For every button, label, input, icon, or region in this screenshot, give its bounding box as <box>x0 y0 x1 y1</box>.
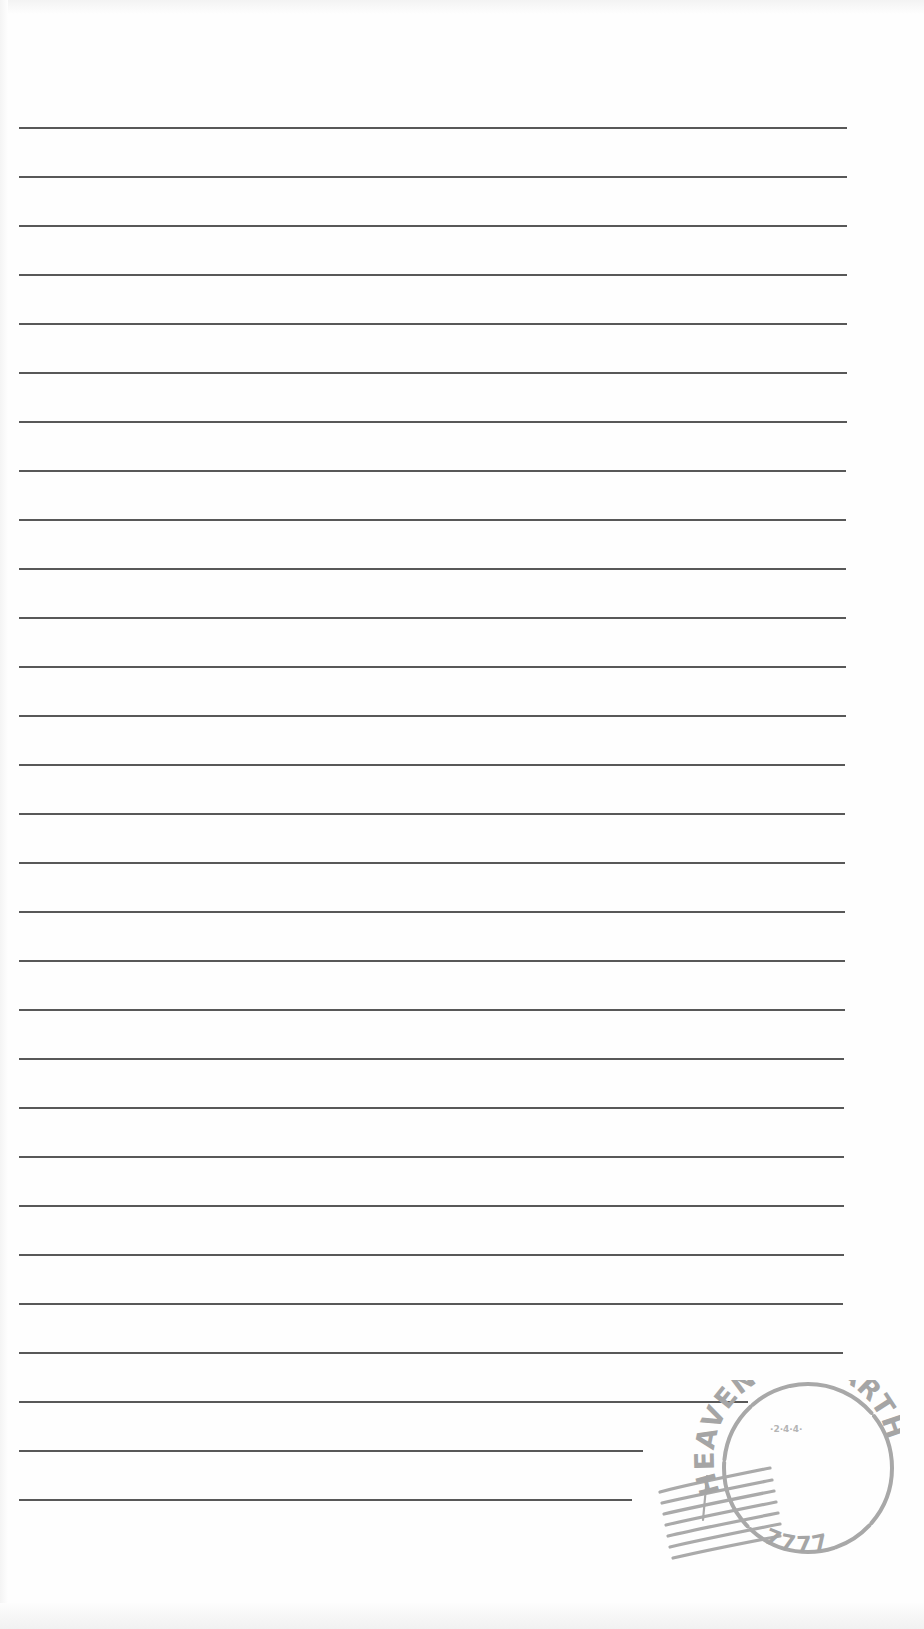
ruled-line <box>19 960 845 962</box>
postmark-bottom-text: 7777 <box>761 1524 832 1557</box>
ruled-line <box>19 1352 843 1354</box>
ruled-line <box>19 1303 843 1305</box>
ruled-line <box>19 225 847 227</box>
paper-bottom-edge-shadow <box>0 1603 924 1629</box>
ruled-line <box>19 470 846 472</box>
ruled-line <box>19 1450 643 1452</box>
ruled-line <box>19 1205 844 1207</box>
ruled-line <box>19 519 846 521</box>
ruled-line <box>19 1499 632 1501</box>
postmark-top-text: HEAVEN on EARTH <box>689 1380 900 1500</box>
postmark-ring <box>724 1384 892 1552</box>
ruled-line <box>19 421 847 423</box>
heaven-on-earth-postmark-stamp: HEAVEN on EARTH 7777 ·2·4·4· <box>640 1380 900 1600</box>
ruled-line <box>19 666 846 668</box>
ruled-line <box>19 1401 748 1403</box>
postmark-center-text: ·2·4·4· <box>770 1424 802 1434</box>
ruled-line <box>19 813 845 815</box>
ruled-line <box>19 911 845 913</box>
ruled-line <box>19 372 847 374</box>
ruled-line <box>19 1107 844 1109</box>
ruled-line <box>19 323 847 325</box>
ruled-line <box>19 862 845 864</box>
paper-left-edge-shadow <box>0 0 8 1629</box>
paper-top-edge-shadow <box>0 0 924 14</box>
ruled-line <box>19 764 845 766</box>
ruled-line <box>19 1058 844 1060</box>
ruled-line <box>19 176 847 178</box>
lined-paper-sheet: HEAVEN on EARTH 7777 ·2·4·4· <box>0 0 924 1629</box>
ruled-line <box>19 715 846 717</box>
ruled-line <box>19 1009 845 1011</box>
ruled-line <box>19 127 847 129</box>
ruled-line <box>19 1254 844 1256</box>
ruled-line <box>19 617 846 619</box>
ruled-line <box>19 568 846 570</box>
ruled-line <box>19 1156 844 1158</box>
ruled-line <box>19 274 847 276</box>
